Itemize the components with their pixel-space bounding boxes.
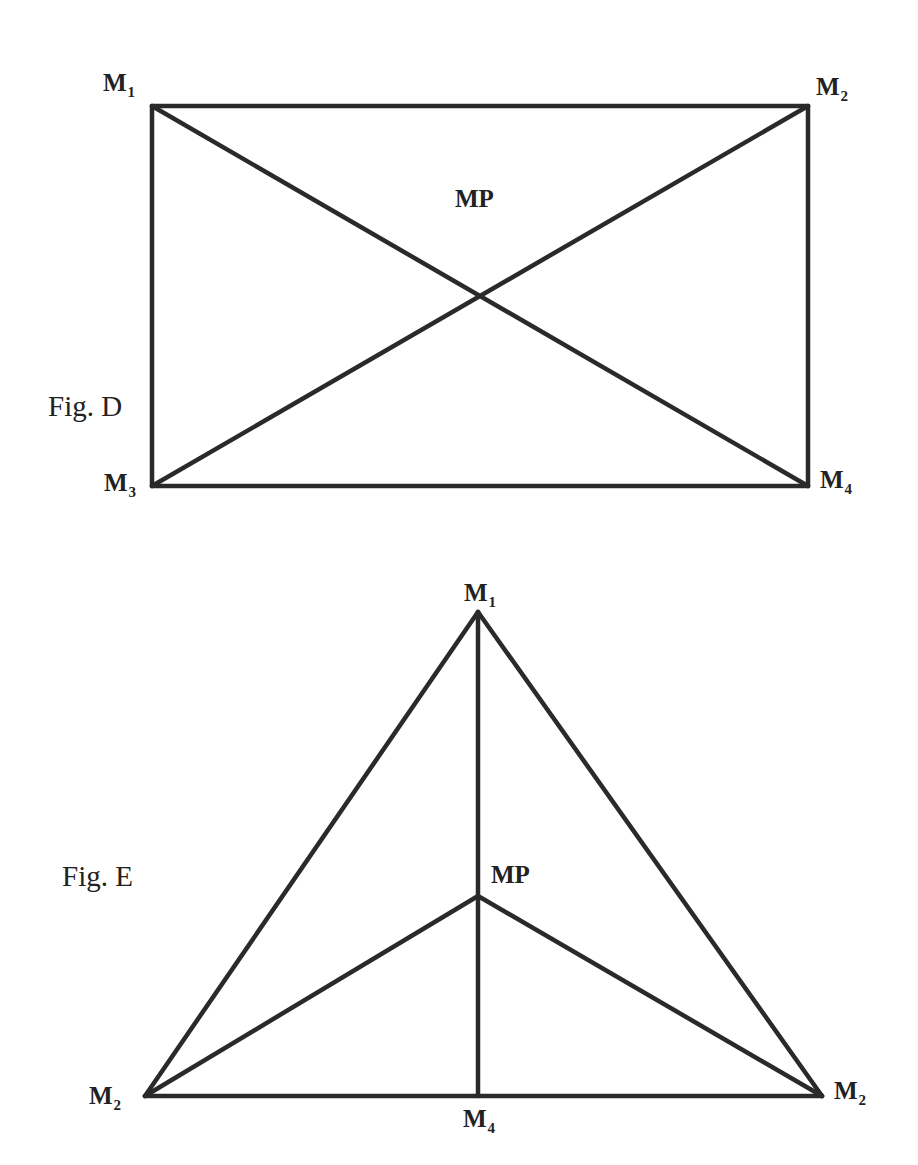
fig-d-label-m1: M1	[103, 70, 135, 95]
fig-e-caption: Fig. E	[62, 862, 133, 891]
fig-e-label-mp: MP	[491, 862, 530, 887]
fig-d-label-m4: M4	[820, 467, 852, 492]
fig-d-label-m3: M3	[104, 470, 136, 495]
diagram-canvas	[0, 0, 918, 1165]
fig-e-label-apex-m1: M1	[464, 580, 496, 605]
fig-e-label-base-mid-m4: M4	[463, 1106, 495, 1131]
figure-d	[152, 106, 808, 486]
fig-d-caption: Fig. D	[48, 392, 122, 421]
figure-e	[145, 612, 822, 1096]
edge-mp-base-right	[478, 896, 822, 1096]
edge-mp-base-left	[145, 896, 478, 1096]
fig-e-label-base-left-m2: M2	[89, 1083, 121, 1108]
fig-d-label-m2: M2	[816, 74, 848, 99]
fig-d-label-mp: MP	[455, 186, 494, 211]
edge-apex-base-left	[145, 612, 478, 1096]
fig-e-label-base-right-m2: M2	[834, 1078, 866, 1103]
edge-apex-base-right	[478, 612, 822, 1096]
